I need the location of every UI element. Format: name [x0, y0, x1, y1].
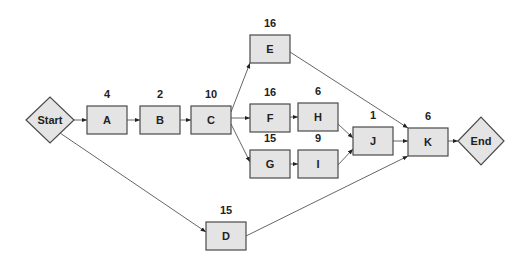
- arrow-C-to-E: [231, 63, 250, 112]
- duration-label-c: 10: [205, 88, 217, 100]
- node-k: 6K: [408, 110, 448, 156]
- node-end: End: [458, 117, 504, 165]
- arrow-I-to-J: [338, 149, 353, 165]
- arrow-C-to-G: [231, 124, 250, 162]
- arrow-H-to-J: [338, 124, 353, 138]
- node-j: 1J: [353, 109, 393, 155]
- duration-label-k: 6: [425, 110, 431, 122]
- node-label-e: E: [266, 43, 273, 55]
- node-c: 10C: [191, 88, 231, 134]
- node-i: 9I: [298, 132, 338, 178]
- node-start: Start: [26, 97, 74, 143]
- node-f: 16F: [250, 86, 290, 132]
- node-b: 2B: [140, 88, 180, 134]
- node-g: 15G: [250, 132, 290, 178]
- node-e: 16E: [250, 17, 290, 63]
- node-a: 4A: [87, 88, 127, 134]
- node-label-j: J: [370, 135, 376, 147]
- diagram-svg: Start4A2B10C16E16F6H15G9I1J6K15DEnd: [0, 0, 528, 276]
- network-diagram: Start4A2B10C16E16F6H15G9I1J6K15DEnd: [0, 0, 528, 276]
- duration-label-e: 16: [264, 17, 276, 29]
- duration-label-f: 16: [264, 86, 276, 98]
- node-label-start: Start: [37, 114, 62, 126]
- node-label-f: F: [267, 112, 274, 124]
- duration-label-b: 2: [157, 88, 163, 100]
- node-d: 15D: [206, 204, 246, 250]
- duration-label-a: 4: [104, 88, 111, 100]
- duration-label-i: 9: [315, 132, 321, 144]
- duration-label-d: 15: [220, 204, 232, 216]
- node-h: 6H: [298, 85, 338, 131]
- arrow-start-to-D: [60, 133, 206, 232]
- node-label-g: G: [266, 158, 275, 170]
- node-label-k: K: [424, 136, 432, 148]
- duration-label-h: 6: [315, 85, 321, 97]
- node-label-b: B: [156, 114, 164, 126]
- node-label-h: H: [314, 111, 322, 123]
- node-label-end: End: [471, 135, 492, 147]
- edges-layer: [60, 52, 458, 236]
- node-label-a: A: [103, 114, 111, 126]
- node-label-c: C: [207, 114, 215, 126]
- nodes-layer: Start4A2B10C16E16F6H15G9I1J6K15DEnd: [26, 17, 504, 250]
- node-label-d: D: [222, 230, 230, 242]
- node-label-i: I: [316, 158, 319, 170]
- duration-label-g: 15: [264, 132, 276, 144]
- duration-label-j: 1: [370, 109, 376, 121]
